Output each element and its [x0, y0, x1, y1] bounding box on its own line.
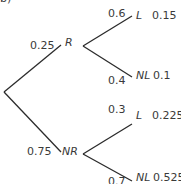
- event-r-nl: NL: [136, 70, 150, 81]
- prob-r-nl: 0.4: [108, 75, 126, 86]
- event-nr-nl: NL: [136, 172, 150, 183]
- event-r: R: [65, 37, 73, 48]
- event-nr-l: L: [136, 110, 142, 121]
- joint-nr-nl: 0.525: [153, 172, 181, 183]
- branch-r-nl: [83, 46, 132, 77]
- event-r-l: L: [136, 10, 142, 21]
- branch-nr-l: [83, 124, 132, 154]
- joint-r-l: 0.15: [152, 10, 177, 21]
- joint-nr-l: 0.225: [152, 110, 181, 121]
- event-nr: NR: [62, 146, 78, 157]
- branch-root-r: [4, 45, 61, 92]
- branch-root-nr: [4, 92, 61, 152]
- joint-r-nl: 0.1: [153, 70, 171, 81]
- prob-nr-l: 0.3: [108, 104, 126, 115]
- prob-nr: 0.75: [27, 146, 52, 157]
- prob-r: 0.25: [30, 40, 55, 51]
- prob-nr-nl: 0.7: [108, 176, 126, 184]
- prob-r-l: 0.6: [108, 8, 126, 19]
- branch-r-l: [83, 16, 132, 46]
